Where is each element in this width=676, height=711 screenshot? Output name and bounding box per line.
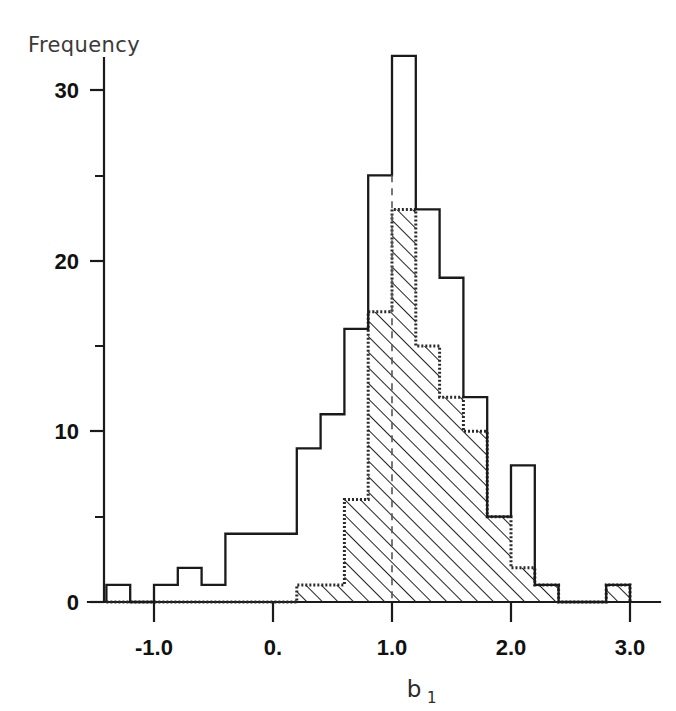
chart-svg: Frequency 0 10 20 30 <box>0 0 676 711</box>
x-axis-title-base: b <box>407 676 422 702</box>
y-tick-label-10: 10 <box>55 419 79 444</box>
x-tick-label-2: 2.0 <box>496 635 527 660</box>
y-tick-label-0: 0 <box>67 590 79 615</box>
y-axis-title: Frequency <box>28 33 140 57</box>
x-axis-title-subscript: 1 <box>427 689 437 707</box>
x-tick-label-1: 1.0 <box>377 635 408 660</box>
x-tick-label-3: 3.0 <box>615 635 646 660</box>
x-tick-label-0: 0. <box>264 635 282 660</box>
y-tick-label-30: 30 <box>55 78 79 103</box>
histogram-chart: Frequency 0 10 20 30 <box>0 0 676 711</box>
y-tick-label-20: 20 <box>55 249 79 274</box>
y-axis-ticks <box>90 90 104 602</box>
x-tick-labels: -1.0 0. 1.0 2.0 3.0 <box>135 635 645 660</box>
y-tick-labels: 0 10 20 30 <box>55 78 79 615</box>
x-axis-ticks <box>154 602 630 622</box>
x-tick-label-neg1: -1.0 <box>135 635 173 660</box>
x-axis-title: b 1 <box>407 676 437 707</box>
